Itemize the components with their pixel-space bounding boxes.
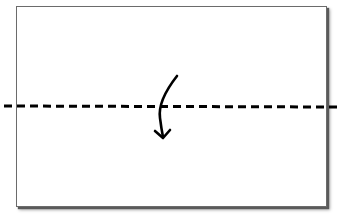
fold-line-dashed [4,106,337,107]
fold-diagram [0,0,337,218]
